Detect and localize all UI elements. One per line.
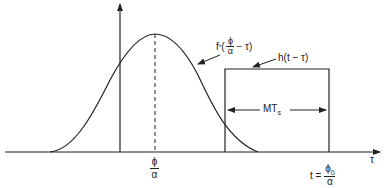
f-star-label: f*( ϕ α − τ)	[216, 37, 252, 56]
mt-text: MT	[263, 103, 277, 114]
peak-phi: ϕ	[152, 157, 158, 167]
h-label: h(t − τ)	[278, 53, 308, 63]
phi-numerator: ϕ	[228, 37, 233, 46]
t-equals-text: t =	[310, 171, 321, 181]
alpha-denominator: α	[327, 177, 333, 187]
minus-tau: − τ)	[236, 42, 252, 52]
peak-alpha: α	[152, 170, 158, 180]
s-subscript: s	[277, 109, 281, 116]
alpha-denominator: α	[228, 47, 233, 56]
f-leader-arrow	[198, 55, 220, 64]
phi-over-alpha: ϕ α	[226, 37, 234, 56]
zero-subscript: 0	[331, 169, 335, 176]
peak-position-label: ϕ α	[150, 157, 159, 180]
mts-label: MTs	[263, 104, 281, 116]
t-equals-label: t = ϕ0 α	[310, 164, 335, 187]
h-leader-arrow	[253, 59, 276, 67]
phi0-over-alpha: ϕ0 α	[324, 164, 335, 187]
diagram-canvas	[0, 0, 384, 188]
tau-label: τ	[370, 155, 374, 165]
open-paren: (	[221, 42, 224, 52]
